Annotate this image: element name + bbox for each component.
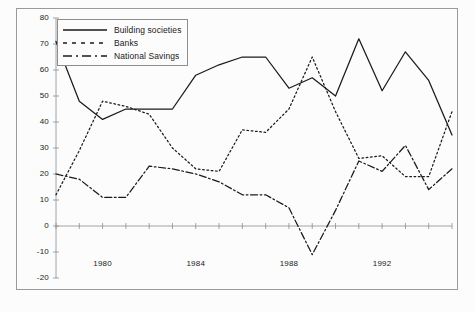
dashdot-line-key (62, 51, 108, 61)
x-tick-label: 1984 (176, 259, 216, 268)
legend-label-building-societies: Building societies (114, 25, 181, 35)
legend-item-building-societies: Building societies (62, 23, 181, 36)
y-tick-label: 10 (23, 195, 49, 204)
y-tick-label: 70 (23, 39, 49, 48)
y-tick-label: 20 (23, 169, 49, 178)
chart-container: 80706050403020100-10-20 1980198419881992… (0, 0, 474, 312)
series-line-banks (56, 57, 452, 195)
x-tick-label: 1992 (362, 259, 402, 268)
x-tick-label: 1980 (83, 259, 123, 268)
y-tick-label: -20 (23, 273, 49, 282)
legend-item-national-savings: National Savings (62, 49, 181, 62)
legend-label-banks: Banks (114, 38, 138, 48)
legend-label-national-savings: National Savings (114, 51, 179, 61)
dotted-line-key (62, 38, 108, 48)
chart-legend: Building societies Banks National Saving… (57, 19, 188, 66)
y-tick-label: 40 (23, 117, 49, 126)
series-line-national-savings (56, 145, 452, 254)
y-tick-label: 50 (23, 91, 49, 100)
y-tick-label: 80 (23, 13, 49, 22)
legend-item-banks: Banks (62, 36, 181, 49)
y-tick-label: -10 (23, 247, 49, 256)
x-tick-label: 1988 (269, 259, 309, 268)
solid-line-key (62, 25, 108, 35)
y-tick-label: 0 (23, 221, 49, 230)
y-tick-label: 30 (23, 143, 49, 152)
y-tick-label: 60 (23, 65, 49, 74)
